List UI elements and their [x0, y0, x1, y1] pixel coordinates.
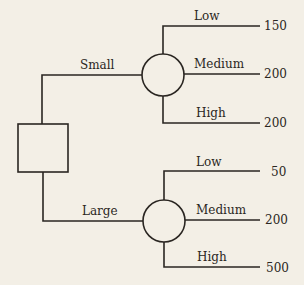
outcome-value: 150 — [264, 19, 287, 33]
outcome-label: High — [197, 250, 227, 264]
decision-tree: Small Low 150 Medium 200 High 200 Large … — [0, 0, 304, 285]
branch-small-line — [42, 75, 142, 124]
branch-large-label: Large — [82, 204, 118, 218]
outcome-label: Low — [196, 155, 222, 169]
outcome-value: 200 — [264, 116, 287, 130]
outcome-label: Low — [194, 9, 220, 23]
outcome-value: 200 — [265, 213, 288, 227]
outcome-line — [163, 26, 260, 54]
branch-small-label: Small — [80, 58, 115, 72]
decision-node — [18, 124, 68, 172]
outcome-line — [164, 171, 260, 200]
outcome-label: Medium — [194, 57, 245, 71]
outcome-value: 200 — [264, 67, 287, 81]
outcome-label: High — [196, 106, 226, 120]
outcome-label: Medium — [196, 203, 247, 217]
chance-node-small — [142, 54, 184, 96]
chance-node-large — [143, 200, 185, 242]
outcome-value: 50 — [271, 165, 286, 179]
outcome-value: 500 — [266, 261, 289, 275]
